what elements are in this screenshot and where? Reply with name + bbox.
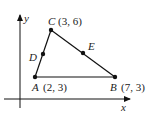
triangle-diagram: y x C (3, 6) D E A (2, 3) B (7, 3) [0, 0, 158, 116]
y-axis-label: y [23, 12, 29, 24]
label-e-name: E [87, 40, 95, 52]
point-d [41, 52, 45, 56]
label-d-name: D [28, 51, 37, 63]
label-c-name: C [48, 15, 56, 27]
point-b [113, 75, 117, 79]
label-a-name: A [31, 81, 39, 93]
point-c [49, 28, 53, 32]
label-a-coords: (2, 3) [43, 81, 67, 94]
x-axis-label: x [120, 101, 126, 113]
point-a [33, 75, 37, 79]
label-b-name: B [110, 81, 117, 93]
label-b-coords: (7, 3) [121, 81, 145, 94]
label-c-coords: (3, 6) [58, 15, 82, 28]
point-e [81, 51, 85, 55]
